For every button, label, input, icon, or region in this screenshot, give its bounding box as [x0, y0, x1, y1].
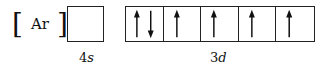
label-3d: 3d — [210, 50, 227, 65]
orbital-box-3d — [126, 7, 164, 41]
spin-up-arrow-icon — [287, 10, 293, 37]
orbital-group-3d — [125, 6, 315, 42]
spin-down-arrow-icon — [148, 11, 154, 38]
spin-up-arrow-icon — [249, 10, 255, 37]
orbital-box-3d — [201, 7, 239, 41]
orbital-box-3d — [164, 7, 202, 41]
spin-up-arrow-icon — [134, 10, 140, 37]
spin-up-arrow-icon — [211, 10, 217, 37]
spin-up-arrow-icon — [173, 10, 179, 37]
orbital-box-3d — [276, 7, 314, 41]
orbital-box-3d — [239, 7, 277, 41]
label-4s: 4s — [79, 50, 94, 65]
orbital-box-4s — [67, 6, 104, 42]
noble-gas-core: [ Ar ] — [12, 10, 68, 38]
open-bracket: [ — [12, 10, 23, 38]
core-symbol: Ar — [31, 15, 49, 33]
